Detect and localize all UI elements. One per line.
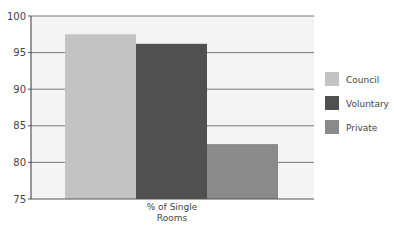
bar-voluntary	[136, 44, 207, 199]
legend-label-council: Council	[346, 75, 379, 85]
y-tick-label: 100	[7, 11, 26, 22]
bar-chart: 7580859095100 % of Single Rooms CouncilV…	[0, 0, 394, 229]
y-tick-label: 75	[13, 194, 26, 205]
bar-council	[65, 34, 136, 199]
legend-swatch-voluntary	[325, 96, 339, 110]
y-tick-label: 80	[13, 157, 26, 168]
x-category-label-line1: % of Single	[147, 202, 198, 212]
legend-swatch-private	[325, 120, 339, 134]
legend: CouncilVoluntaryPrivate	[325, 72, 390, 134]
y-tick-label: 95	[13, 47, 26, 58]
y-tick-label: 85	[13, 120, 26, 131]
bar-private	[207, 144, 278, 199]
y-tick-label: 90	[13, 84, 26, 95]
y-axis-ticks: 7580859095100	[7, 11, 31, 205]
legend-label-voluntary: Voluntary	[346, 99, 390, 109]
x-category-label-line2: Rooms	[157, 213, 188, 223]
legend-label-private: Private	[346, 123, 378, 133]
legend-swatch-council	[325, 72, 339, 86]
